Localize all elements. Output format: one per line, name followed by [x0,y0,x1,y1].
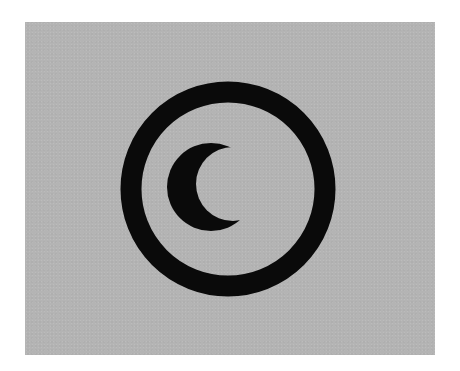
crescent-moon-icon [150,130,270,250]
crescent-moon-in-circle-icon [0,0,460,371]
figure-canvas [0,0,460,371]
